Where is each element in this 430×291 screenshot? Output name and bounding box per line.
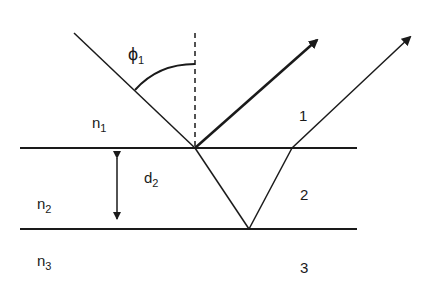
internal-reflected-ray [249, 148, 292, 229]
n1-subscript: 1 [100, 122, 106, 134]
thin-film-diagram: ϕ1 n1 n2 n3 d2 1 2 3 [0, 0, 430, 291]
angle-label: ϕ1 [128, 45, 144, 66]
thickness-label: d2 [144, 170, 158, 189]
diagram-graphics [0, 0, 430, 291]
n3-label: n3 [37, 253, 51, 272]
region-2-label: 2 [300, 187, 308, 202]
phi-subscript: 1 [138, 54, 144, 66]
n3-subscript: 3 [45, 260, 51, 272]
refracted-ray [195, 148, 249, 229]
phi-symbol: ϕ [128, 44, 138, 64]
angle-arc [135, 64, 195, 90]
d-subscript: 2 [152, 177, 158, 189]
n1-label: n1 [92, 115, 106, 134]
n2-label: n2 [37, 196, 51, 215]
reflected-ray [195, 40, 317, 148]
region-3-label: 3 [300, 260, 308, 275]
n2-subscript: 2 [45, 203, 51, 215]
ray-1-label: 1 [299, 108, 307, 123]
emerging-ray [292, 37, 410, 148]
